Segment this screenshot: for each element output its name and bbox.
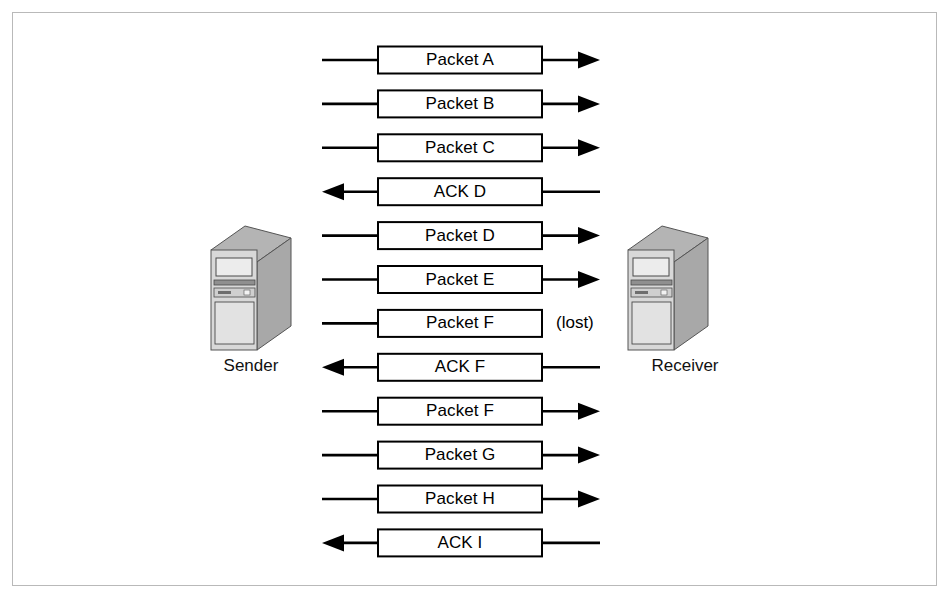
server-tower-icon (622, 222, 714, 354)
lost-annotation: (lost) (556, 313, 594, 333)
message-label: Packet A (378, 50, 542, 70)
message-label: Packet D (378, 226, 542, 246)
message-label: Packet E (378, 270, 542, 290)
message-rows-layer (322, 47, 600, 557)
message-label: ACK F (378, 357, 542, 377)
message-label: ACK I (378, 533, 542, 553)
diagram-canvas (0, 0, 950, 606)
message-label: Packet F (378, 401, 542, 421)
diagram-figure: Sender Receiver Packet APacket BPacket C… (0, 0, 950, 606)
message-label: Packet B (378, 94, 542, 114)
message-label: ACK D (378, 182, 542, 202)
message-label: Packet G (378, 445, 542, 465)
receiver-label: Receiver (620, 356, 750, 376)
server-tower-icon (205, 222, 297, 354)
sender-label: Sender (195, 356, 307, 376)
message-label: Packet C (378, 138, 542, 158)
message-label: Packet F (378, 313, 542, 333)
message-label: Packet H (378, 489, 542, 509)
